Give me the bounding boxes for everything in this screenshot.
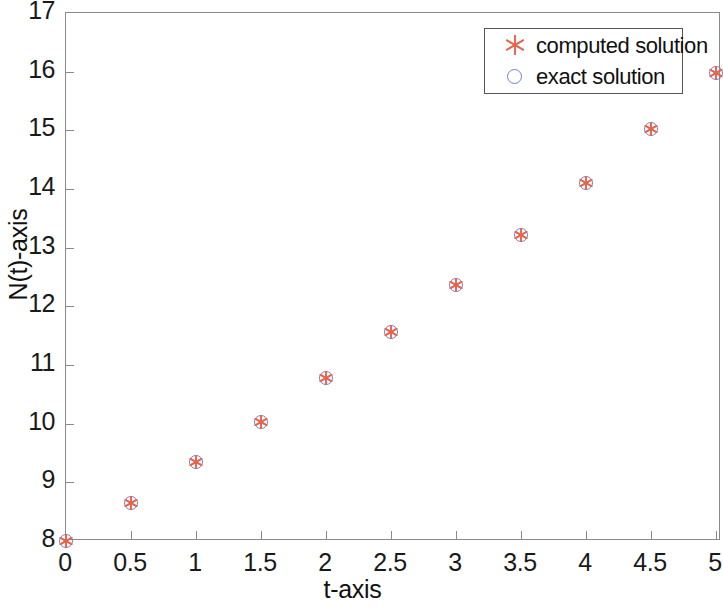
y-axis-tick-label: 14	[28, 172, 55, 201]
x-axis-tick-label: 4.5	[633, 548, 666, 577]
y-axis-tick-label: 15	[28, 113, 55, 142]
legend-marker-sample	[495, 30, 535, 61]
computed-solution-marker	[579, 176, 593, 190]
y-axis-tick-label: 10	[28, 407, 55, 436]
y-axis-tick-label: 12	[28, 289, 55, 318]
x-axis-tick	[651, 531, 652, 539]
x-axis-title: t-axis	[0, 575, 705, 604]
computed-solution-marker	[59, 534, 73, 548]
computed-solution-marker	[384, 325, 398, 339]
x-axis-tick-label: 1.5	[243, 548, 276, 577]
y-axis-tick-label: 13	[28, 231, 55, 260]
y-axis-tick-label: 17	[28, 0, 55, 25]
chart-legend: computed solutionexact solution	[484, 28, 683, 94]
x-axis-tick-label: 2.5	[373, 548, 406, 577]
y-axis-tick	[66, 248, 74, 249]
x-axis-tick	[456, 531, 457, 539]
y-axis-tick	[66, 482, 74, 483]
y-axis-tick	[66, 365, 74, 366]
computed-solution-marker	[514, 228, 528, 242]
x-axis-tick	[716, 531, 717, 539]
computed-solution-marker	[124, 496, 138, 510]
x-axis-tick	[521, 531, 522, 539]
y-axis-tick-label: 16	[28, 55, 55, 84]
circle-icon	[507, 69, 522, 84]
x-axis-tick	[261, 531, 262, 539]
computed-solution-marker	[319, 371, 333, 385]
y-axis-tick-label: 11	[30, 348, 55, 377]
computed-solution-marker	[449, 278, 463, 292]
y-axis-tick	[66, 130, 74, 131]
x-axis-tick-label: 0.5	[113, 548, 146, 577]
x-axis-tick	[326, 531, 327, 539]
computed-solution-marker	[254, 415, 268, 429]
x-axis-tick-label: 4	[578, 548, 591, 577]
legend-marker-sample	[495, 61, 535, 92]
y-axis-tick-label: 8	[42, 524, 55, 553]
y-axis-tick-label: 9	[42, 465, 55, 494]
y-axis-tick	[66, 306, 74, 307]
x-axis-tick-label: 3.5	[503, 548, 536, 577]
x-axis-tick-label: 2	[318, 548, 331, 577]
x-axis-tick-label: 0	[58, 548, 71, 577]
y-axis-tick	[66, 424, 74, 425]
y-axis-tick	[66, 72, 74, 73]
x-axis-tick-label: 3	[448, 548, 461, 577]
x-axis-tick	[196, 531, 197, 539]
computed-solution-marker	[189, 455, 203, 469]
x-axis-tick	[586, 531, 587, 539]
x-axis-tick-label: 5	[708, 548, 721, 577]
computed-solution-marker	[709, 66, 723, 80]
legend-label: computed solution	[536, 30, 708, 61]
y-axis-tick	[66, 189, 74, 190]
x-axis-tick	[391, 531, 392, 539]
legend-label: exact solution	[536, 61, 665, 92]
legend-entry: computed solution	[485, 30, 682, 61]
x-axis-tick-label: 1	[188, 548, 201, 577]
x-axis-tick	[131, 531, 132, 539]
legend-entry: exact solution	[485, 61, 682, 92]
asterisk-icon	[505, 35, 525, 55]
computed-solution-marker	[644, 122, 658, 136]
